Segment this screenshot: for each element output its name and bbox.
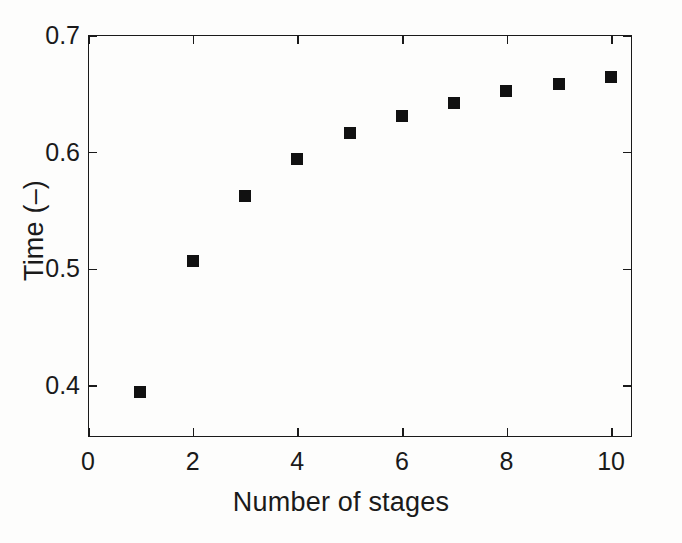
x-tick-mark xyxy=(611,36,613,44)
x-tick-mark xyxy=(193,428,195,436)
x-tick-mark xyxy=(88,36,90,44)
x-tick-label: 2 xyxy=(186,447,200,476)
x-tick-label: 6 xyxy=(395,447,409,476)
x-tick-mark xyxy=(297,36,299,44)
y-tick-mark xyxy=(623,269,631,271)
y-axis-label: Time (–) xyxy=(19,101,50,361)
data-point-marker xyxy=(291,153,303,165)
data-point-marker xyxy=(448,97,460,109)
y-tick-label: 0.4 xyxy=(28,371,80,400)
data-point-marker xyxy=(239,190,251,202)
y-tick-mark xyxy=(623,385,631,387)
data-point-marker xyxy=(187,255,199,267)
plot-axes-box xyxy=(88,35,632,437)
x-tick-label: 10 xyxy=(597,447,625,476)
x-tick-mark xyxy=(88,428,90,436)
x-tick-mark xyxy=(402,36,404,44)
data-point-marker xyxy=(553,78,565,90)
data-point-marker xyxy=(134,386,146,398)
x-tick-mark xyxy=(297,428,299,436)
y-tick-mark xyxy=(89,35,97,37)
x-tick-mark xyxy=(507,36,509,44)
data-point-marker xyxy=(344,127,356,139)
figure-canvas: 02468100.40.50.60.7 Number of stages Tim… xyxy=(0,0,682,543)
y-tick-mark xyxy=(89,385,97,387)
y-tick-mark xyxy=(623,152,631,154)
x-tick-label: 0 xyxy=(81,447,95,476)
data-point-marker xyxy=(500,85,512,97)
data-point-marker xyxy=(396,110,408,122)
y-tick-label: 0.7 xyxy=(28,21,80,50)
x-tick-mark xyxy=(611,428,613,436)
x-tick-mark xyxy=(193,36,195,44)
y-tick-mark xyxy=(89,269,97,271)
x-tick-mark xyxy=(402,428,404,436)
x-tick-mark xyxy=(507,428,509,436)
y-tick-mark xyxy=(89,152,97,154)
x-tick-label: 8 xyxy=(500,447,514,476)
x-tick-label: 4 xyxy=(290,447,304,476)
y-tick-mark xyxy=(623,35,631,37)
x-axis-label: Number of stages xyxy=(0,487,682,518)
data-point-marker xyxy=(605,71,617,83)
